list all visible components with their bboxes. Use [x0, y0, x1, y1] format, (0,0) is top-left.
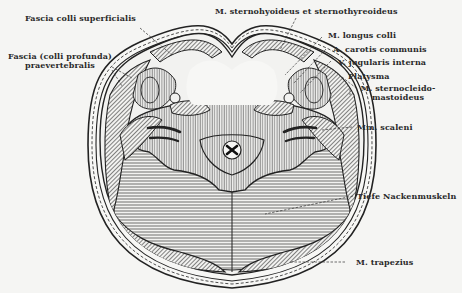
label-platysma: Platysma: [348, 72, 390, 81]
label-mm-scaleni: Mm. scaleni: [357, 123, 413, 132]
label-scm-line2: mastoideus: [350, 93, 446, 102]
label-fascia-praevertebralis-line2: praevertebralis: [5, 61, 115, 70]
label-fascia-colli-superficialis: Fascia colli superficialis: [25, 14, 136, 23]
label-m-trapezius: M. trapezius: [356, 258, 413, 267]
neck-cross-section-figure: Fascia colli superficialis Fascia (colli…: [0, 0, 462, 293]
label-v-jugularis-interna: V. jugularis interna: [338, 58, 426, 67]
label-m-sternocleidomastoideus: M. sternocleido- mastoideus: [350, 84, 446, 102]
label-tiefe-nackenmuskeln: Tiefe Nackenmuskeln: [357, 192, 456, 201]
label-m-longus-colli: M. longus colli: [328, 31, 396, 40]
label-fascia-praevertebralis: Fascia (colli profunda) praevertebralis: [5, 52, 115, 70]
label-m-sternohyoideus: M. sternohyoideus et sternothyreoideus: [215, 7, 398, 16]
label-a-carotis-communis: A. carotis communis: [333, 45, 427, 54]
